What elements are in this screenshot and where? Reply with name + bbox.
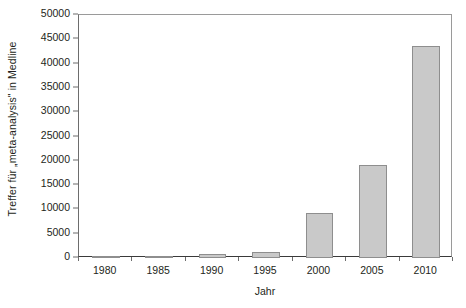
x-axis-tick-label: 1980 <box>93 264 116 276</box>
x-axis-tick-mark <box>452 257 453 261</box>
x-axis-tick-mark <box>292 257 293 261</box>
y-axis-tick-label: 25000 <box>41 128 70 140</box>
x-axis-tick-label: 2010 <box>414 264 437 276</box>
bar-2005 <box>359 165 387 258</box>
x-axis-tick-mark <box>185 257 186 261</box>
bar-2010 <box>412 46 440 258</box>
y-axis-tick-label: 20000 <box>41 152 70 164</box>
y-axis-tick-label: 15000 <box>41 177 70 189</box>
x-axis-tick-mark <box>238 257 239 261</box>
y-axis-tick-label: 35000 <box>41 79 70 91</box>
x-axis-tick-label: 2000 <box>307 264 330 276</box>
bar-2000 <box>306 213 334 258</box>
x-axis-tick-mark <box>131 257 132 261</box>
y-axis-tick-label: 50000 <box>41 7 70 19</box>
y-axis-title: Treffer für „meta-analysis" in Medline <box>0 0 22 258</box>
plot-area <box>78 14 452 257</box>
bar-chart: Treffer für „meta-analysis" in Medline 0… <box>0 0 466 308</box>
y-axis-tick-label: 40000 <box>41 55 70 67</box>
bar-1990 <box>199 254 227 258</box>
bar-1985 <box>145 256 173 259</box>
x-axis-tick-mark <box>78 257 79 261</box>
y-axis-title-label: Treffer für „meta-analysis" in Medline <box>5 41 17 216</box>
x-axis-tick-label: 2005 <box>360 264 383 276</box>
y-axis-tick-label: 5000 <box>47 225 70 237</box>
x-axis-tick-label: 1990 <box>200 264 223 276</box>
y-axis-tick-label: 0 <box>64 250 70 262</box>
x-axis-tick-label: 1995 <box>253 264 276 276</box>
y-axis-tick-label: 30000 <box>41 104 70 116</box>
x-axis-tick-mark <box>399 257 400 261</box>
x-axis-tick-label: 1985 <box>146 264 169 276</box>
y-axis-tick-label: 45000 <box>41 31 70 43</box>
bar-1980 <box>92 256 120 259</box>
y-axis-tick-label: 10000 <box>41 201 70 213</box>
x-axis-title: Jahr <box>78 285 452 297</box>
bar-1995 <box>252 252 280 258</box>
x-axis-tick-mark <box>345 257 346 261</box>
